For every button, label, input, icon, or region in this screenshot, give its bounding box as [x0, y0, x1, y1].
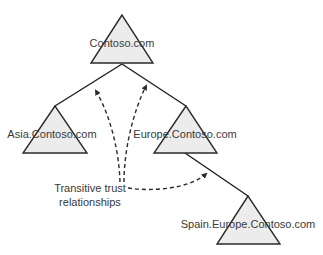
- link-root-to-europe: [122, 64, 186, 106]
- trust-caption-line1: Transitive trust: [54, 182, 126, 194]
- domain-node-asia: Asia.Contoso.com: [7, 106, 96, 153]
- domain-node-spain: Spain.Europe.Contoso.com: [181, 196, 316, 244]
- domain-label-spain: Spain.Europe.Contoso.com: [181, 218, 316, 230]
- domain-node-europe: Europe.Contoso.com: [133, 106, 236, 153]
- link-europe-to-spain: [185, 153, 248, 196]
- trust-arrow-to-asia: [96, 91, 120, 182]
- trust-caption-line2: relationships: [59, 196, 121, 208]
- domain-label-europe: Europe.Contoso.com: [133, 128, 236, 140]
- trust-arrow-to-spain: [128, 174, 206, 189]
- domain-node-root: Contoso.com: [90, 15, 155, 63]
- domain-tree-diagram: Contoso.com Asia.Contoso.com Europe.Cont…: [0, 0, 323, 255]
- link-root-to-asia: [55, 64, 122, 106]
- domain-label-asia: Asia.Contoso.com: [7, 128, 96, 140]
- domain-label-root: Contoso.com: [90, 37, 155, 49]
